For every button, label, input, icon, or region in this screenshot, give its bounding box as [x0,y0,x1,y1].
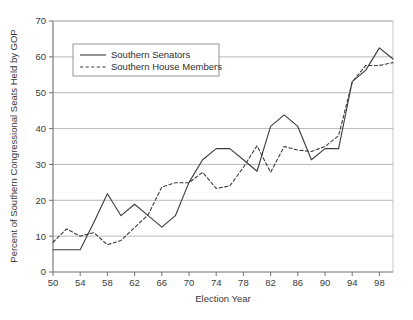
legend: Southern Senators Southern House Members [73,44,222,76]
x-tick-label: 62 [129,277,140,288]
y-axis-ticks: 010203040506070 [35,15,53,277]
y-tick-label: 20 [35,195,46,206]
x-tick-label: 70 [184,277,195,288]
x-tick-label: 86 [293,277,304,288]
x-tick-label: 98 [374,277,385,288]
chart-figure: 010203040506070 505458626670747882869094… [0,0,413,320]
x-tick-label: 82 [265,277,276,288]
y-tick-label: 60 [35,51,46,62]
x-tick-label: 74 [211,277,222,288]
y-axis-title: Percent of Southern Congressional Seats … [8,29,19,262]
x-tick-label: 94 [347,277,358,288]
y-tick-label: 30 [35,159,46,170]
legend-label-southern-house-members: Southern House Members [111,61,222,72]
y-tick-label: 70 [35,15,46,26]
x-tick-label: 90 [320,277,331,288]
x-tick-label: 50 [48,277,59,288]
line-chart: 010203040506070 505458626670747882869094… [0,0,413,320]
x-tick-label: 54 [75,277,86,288]
y-tick-label: 40 [35,123,46,134]
x-axis-ticks: 50545862667074788286909498 [48,272,385,288]
legend-label-southern-senators: Southern Senators [111,49,190,60]
y-tick-label: 50 [35,87,46,98]
x-tick-label: 66 [157,277,168,288]
y-tick-label: 0 [41,266,46,277]
x-axis-title: Election Year [195,293,250,304]
x-tick-label: 78 [238,277,249,288]
y-tick-label: 10 [35,231,46,242]
x-tick-label: 58 [102,277,113,288]
